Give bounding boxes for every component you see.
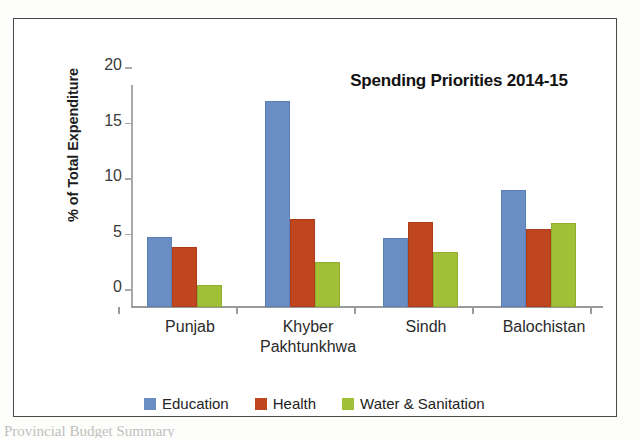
x-axis-tick: [354, 307, 356, 314]
bar-water-balochistan: [551, 223, 576, 307]
x-axis-tick: [118, 307, 120, 314]
x-axis-label-khyber-pakhtunkhwa: KhyberPakhtunkhwa: [249, 317, 367, 357]
legend-swatch-water-sanitation: [342, 398, 354, 410]
y-tick-label: 0: [82, 278, 122, 296]
legend-item-education: Education: [144, 395, 229, 412]
y-tick-mark: [125, 178, 132, 180]
legend-label-education: Education: [162, 395, 229, 412]
y-tick-mark: [125, 234, 132, 236]
x-axis-category-labels: PunjabKhyberPakhtunkhwaSindhBalochistan: [131, 317, 603, 375]
y-tick-label: 15: [82, 112, 122, 130]
bar-water-sindh: [433, 252, 458, 308]
y-tick-label: 10: [82, 167, 122, 185]
y-tick-mark: [125, 67, 132, 69]
x-axis-tick: [236, 307, 238, 314]
bar-group: [485, 85, 603, 307]
bar-group: [131, 85, 249, 307]
bar-education-sindh: [383, 238, 408, 307]
legend-item-health: Health: [255, 395, 316, 412]
bar-water-punjab: [197, 285, 222, 307]
y-tick-mark: [125, 123, 132, 125]
bar-education-khyber-pakhtunkhwa: [265, 101, 290, 307]
bar-water-khyber-pakhtunkhwa: [315, 262, 340, 308]
bar-health-balochistan: [526, 229, 551, 307]
legend-item-water-sanitation: Water & Sanitation: [342, 395, 485, 412]
y-tick-mark: [125, 289, 132, 291]
bar-health-sindh: [408, 222, 433, 307]
x-axis-tick: [590, 307, 592, 314]
x-axis-label-line: Balochistan: [485, 317, 603, 337]
x-axis-label-sindh: Sindh: [367, 317, 485, 337]
y-axis-tick-labels: 05101520: [72, 19, 122, 439]
y-tick-label: 5: [82, 223, 122, 241]
x-axis-label-line: Khyber: [249, 317, 367, 337]
bar-group: [249, 85, 367, 307]
legend-label-water-sanitation: Water & Sanitation: [360, 395, 485, 412]
legend-label-health: Health: [273, 395, 316, 412]
bar-education-balochistan: [501, 190, 526, 307]
bar-health-khyber-pakhtunkhwa: [290, 219, 315, 307]
bar-health-punjab: [172, 247, 197, 307]
x-axis-label-line: Sindh: [367, 317, 485, 337]
cut-off-caption: Provincial Budget Summary: [4, 424, 284, 438]
x-axis-tick: [472, 307, 474, 314]
legend-swatch-health: [255, 398, 267, 410]
x-axis-label-line: Punjab: [131, 317, 249, 337]
x-axis-label-punjab: Punjab: [131, 317, 249, 337]
bar-group: [367, 85, 485, 307]
y-tick-label: 20: [82, 56, 122, 74]
x-axis-label-balochistan: Balochistan: [485, 317, 603, 337]
x-axis-label-line: Pakhtunkhwa: [249, 337, 367, 357]
figure-frame: Spending Priorities 2014-15 % of Total E…: [13, 18, 617, 417]
chart-legend: EducationHealthWater & Sanitation: [144, 395, 485, 412]
bars-layer: [131, 85, 603, 307]
legend-swatch-education: [144, 398, 156, 410]
bar-education-punjab: [147, 237, 172, 307]
